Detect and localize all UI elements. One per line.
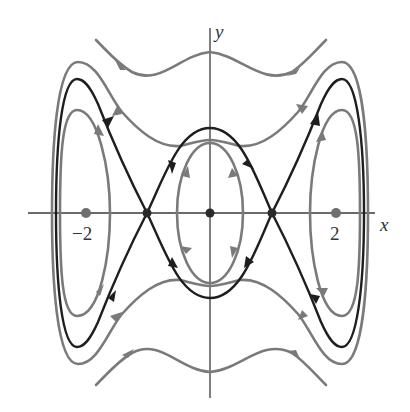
arrow-icon [316,130,326,142]
y-axis-label: y [213,21,224,42]
center-point-right [331,208,341,218]
arrow-icon [242,159,254,169]
saddle-point-left [143,209,152,218]
bottom-wave-trajectory [96,349,326,385]
center-point-left [81,208,91,218]
tick-label-neg2: −2 [72,223,92,244]
x-axis-label: x [379,214,389,235]
tick-label-2: 2 [330,223,340,244]
arrow-icon [310,112,320,126]
arrow-icon [288,350,300,359]
phase-portrait-diagram: −2 2 x y [0,0,410,412]
top-wave-trajectory [96,40,326,76]
saddle-point-right [268,209,277,218]
axes [28,28,375,398]
center-point-origin [206,209,215,218]
